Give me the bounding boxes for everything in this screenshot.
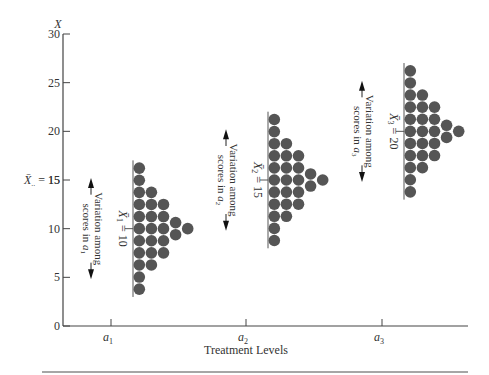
variation-label: Variation amongscores in a3 [350, 95, 376, 169]
score-dot [170, 217, 182, 229]
score-dot [441, 132, 453, 144]
score-dot [441, 119, 453, 131]
score-dot [417, 89, 429, 101]
variation-label-line1: Variation among [228, 143, 240, 217]
score-dot [134, 247, 146, 259]
score-dot [417, 162, 429, 174]
y-tick-label: 10 [48, 222, 60, 236]
score-dot [405, 77, 417, 89]
group-a1: X̄1 = 10Variation amongscores in a1 [79, 160, 194, 297]
arrow-down-icon [359, 172, 365, 182]
score-dot [269, 150, 281, 162]
grand-mean-text: X̄.. = 15 [23, 173, 60, 188]
arrow-up-icon [223, 129, 229, 139]
score-dot [134, 211, 146, 223]
score-dot [417, 150, 429, 162]
variation-label-line1: Variation among [93, 192, 105, 266]
dot-distribution-chart: X Treatment Levels 051015202530 a1a2a3 X… [0, 0, 489, 375]
score-dot [269, 174, 281, 186]
score-dot [269, 211, 281, 223]
score-dot [305, 180, 317, 192]
score-dot [269, 162, 281, 174]
chart-canvas: X Treatment Levels 051015202530 a1a2a3 X… [0, 0, 489, 375]
score-dot [417, 113, 429, 125]
score-dot [281, 138, 293, 150]
y-tick-label: 25 [48, 76, 60, 90]
score-dot [146, 187, 158, 199]
variation-label-line1: Variation among [364, 95, 376, 169]
score-dot [293, 162, 305, 174]
y-tick-label: 0 [54, 319, 60, 333]
treatment-groups: X̄1 = 10Variation amongscores in a1X̄2 =… [79, 63, 465, 297]
x-tick-label: a1 [103, 330, 113, 346]
score-dot [134, 235, 146, 247]
x-tick-label: a3 [374, 330, 384, 346]
score-dot [146, 235, 158, 247]
score-dot [158, 211, 170, 223]
score-dot [417, 138, 429, 150]
x-tick-label: a2 [238, 330, 248, 346]
y-tick-label: 5 [54, 270, 60, 284]
score-dot [405, 65, 417, 77]
score-dot [269, 138, 281, 150]
y-tick-label: 20 [48, 124, 60, 138]
score-dot [269, 198, 281, 210]
variation-label-line2: scores in a1 [79, 203, 93, 254]
variation-label: Variation amongscores in a2 [214, 143, 240, 217]
score-dot [405, 89, 417, 101]
score-dot [405, 126, 417, 138]
score-dot [429, 113, 441, 125]
score-dot [269, 126, 281, 138]
score-dot [293, 186, 305, 198]
score-dot [429, 101, 441, 113]
score-dot [429, 150, 441, 162]
score-dot [405, 101, 417, 113]
score-dot [134, 271, 146, 283]
score-dot [134, 199, 146, 211]
arrow-down-icon [223, 221, 229, 231]
score-dot [281, 150, 293, 162]
score-dot [281, 198, 293, 210]
grand-mean-label: X̄.. = 15 [23, 173, 60, 188]
score-dot [158, 199, 170, 211]
score-dot [146, 223, 158, 235]
score-dot [453, 126, 465, 138]
group-a3: X̄3 = 20Variation amongscores in a3 [350, 63, 465, 200]
y-tick-label: 30 [48, 27, 60, 41]
score-dot [134, 223, 146, 235]
score-dot [146, 259, 158, 271]
score-dot [146, 247, 158, 259]
score-dot [405, 186, 417, 198]
score-dot [429, 138, 441, 150]
variation-label-line2: scores in a3 [350, 106, 364, 157]
variation-label-line2: scores in a2 [214, 155, 228, 206]
group-mean-label: X̄1 = 10 [115, 210, 130, 247]
score-dot [281, 162, 293, 174]
x-ticks: a1a2a3 [103, 319, 384, 346]
score-dot [317, 174, 329, 186]
group-mean-label: X̄2 = 15 [250, 161, 265, 198]
score-dot [293, 174, 305, 186]
score-dot [405, 150, 417, 162]
score-dot [305, 168, 317, 180]
score-dot [281, 211, 293, 223]
score-dot [281, 186, 293, 198]
score-dot [429, 126, 441, 138]
score-dot [134, 162, 146, 174]
score-dot [158, 235, 170, 247]
variation-label: Variation amongscores in a1 [79, 192, 105, 266]
score-dot [405, 174, 417, 186]
arrow-up-icon [359, 81, 365, 91]
score-dot [134, 174, 146, 186]
score-dot [269, 223, 281, 235]
group-mean-label: X̄3 = 20 [386, 112, 401, 149]
score-dot [158, 223, 170, 235]
score-dot [405, 138, 417, 150]
score-dot [158, 247, 170, 259]
score-dot [146, 199, 158, 211]
score-dot [182, 223, 194, 235]
score-dot [405, 113, 417, 125]
group-a2: X̄2 = 15Variation amongscores in a2 [214, 112, 329, 249]
score-dot [417, 126, 429, 138]
score-dot [134, 259, 146, 271]
